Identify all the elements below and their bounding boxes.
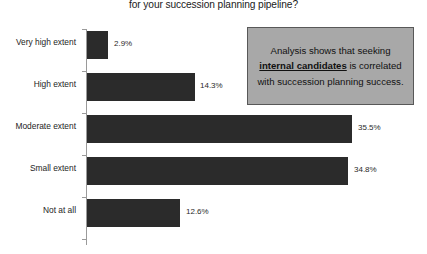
annotation-line-4: planning success. <box>327 76 403 87</box>
bar[interactable] <box>87 31 108 59</box>
bar[interactable] <box>87 115 352 143</box>
annotation-line-1: Analysis shows that seeking <box>271 45 391 56</box>
bar-value-label: 14.3% <box>200 80 223 91</box>
annotation-callout: Analysis shows that seeking internal can… <box>247 27 414 105</box>
axis-tick <box>82 239 86 240</box>
annotation-emphasis: internal candidates <box>259 60 346 71</box>
bar[interactable] <box>87 199 180 227</box>
chart-title: for your succession planning pipeline? <box>0 0 427 11</box>
bar-row: Moderate extent 35.5% <box>0 113 427 155</box>
bar-value-label: 2.9% <box>114 38 132 49</box>
annotation-line-2-tail: is <box>347 60 357 71</box>
category-label: Very high extent <box>0 37 76 48</box>
bar-value-label: 12.6% <box>186 206 209 217</box>
bar[interactable] <box>87 157 348 185</box>
bar-value-label: 34.8% <box>354 164 377 175</box>
category-label: Moderate extent <box>0 121 76 132</box>
bar-row: Not at all 12.6% <box>0 197 427 239</box>
category-label: High extent <box>0 79 76 90</box>
annotation-text: Analysis shows that seeking internal can… <box>250 43 411 90</box>
category-label: Not at all <box>0 205 76 216</box>
bar-row: Small extent 34.8% <box>0 155 427 197</box>
bar-chart: for your succession planning pipeline? V… <box>0 0 427 254</box>
bar[interactable] <box>87 73 195 101</box>
category-label: Small extent <box>0 163 76 174</box>
bar-value-label: 35.5% <box>358 122 381 133</box>
